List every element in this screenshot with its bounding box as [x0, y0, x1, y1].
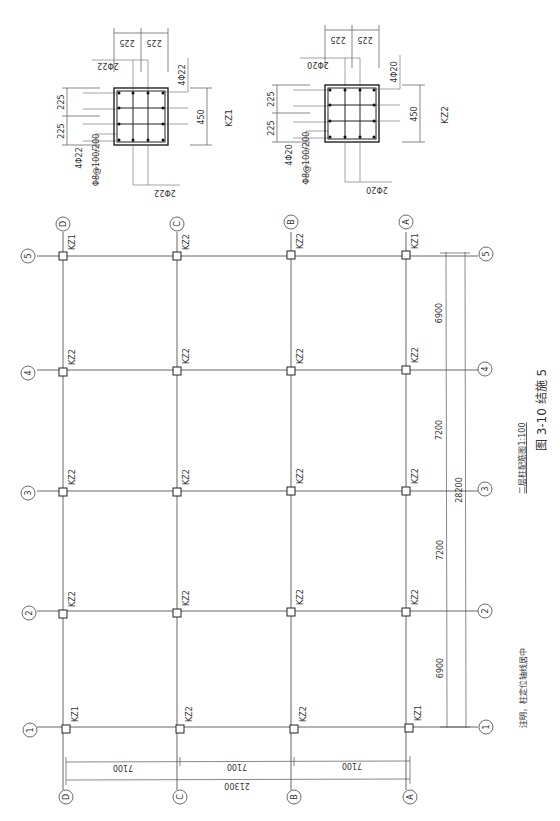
column-C1 [176, 725, 184, 733]
kz2-dim-top-b: 225 [357, 35, 372, 44]
kz1-corner-bars: 4Φ22 [75, 147, 84, 169]
axis-D-bottom: D [62, 794, 71, 800]
axis-A-top: A [402, 219, 411, 225]
column-D2 [59, 610, 67, 618]
kz1-dim-top-a: 225 [119, 38, 134, 47]
axis-bubbles-left: 5 4 3 2 1 [21, 249, 37, 737]
kz2-stirrup: Φ8@100/200 [302, 132, 311, 185]
kz2-dim-top-a: 225 [330, 35, 345, 44]
kz1-dim-left-b: 225 [57, 123, 66, 138]
col-label-C1: KZ2 [185, 706, 194, 722]
column-D4 [59, 368, 67, 376]
col-label-B1: KZ2 [299, 706, 308, 722]
kz1-dim-left-a: 225 [57, 94, 66, 109]
axis-2-left: 2 [25, 610, 34, 615]
col-label-A1: KZ1 [414, 705, 423, 721]
columns: KZ1 KZ2 KZ2 KZ1 KZ2 KZ2 KZ2 KZ2 KZ2 KZ2 … [59, 233, 423, 733]
kz1-label: KZ1 [224, 109, 234, 127]
column-B1 [290, 725, 298, 733]
kz2-dim-left-a: 225 [267, 91, 276, 106]
col-label-C3: KZ2 [182, 469, 191, 485]
axis-2-right: 2 [481, 608, 490, 613]
column-B5 [287, 251, 295, 259]
kz1-size: 450 [197, 109, 206, 124]
col-label-A5: KZ1 [411, 233, 420, 249]
col-label-C5: KZ2 [182, 234, 191, 250]
dim-2-1: 6900 [436, 658, 445, 678]
axis-4-left: 4 [24, 370, 33, 375]
axis-bubbles-top: D C B A [56, 215, 413, 231]
column-D1 [62, 725, 70, 733]
dim-4-3: 7200 [435, 420, 444, 440]
col-label-D5: KZ1 [68, 234, 77, 250]
column-A4 [402, 366, 410, 374]
kz1-right-bars: 4Φ22 [178, 64, 187, 86]
dim-total-letters: 21300 [224, 781, 249, 790]
kz2-top-bars: 2Φ20 [307, 60, 329, 69]
col-label-D4: KZ2 [68, 349, 77, 365]
kz2-bottom-bars: 2Φ20 [366, 185, 388, 194]
dim-5-4: 6900 [435, 303, 444, 323]
col-label-B2: KZ2 [296, 589, 305, 605]
kz2-right-bars: 4Φ20 [390, 61, 399, 83]
axis-1-left: 1 [26, 727, 35, 732]
col-label-B5: KZ2 [296, 233, 305, 249]
column-C4 [173, 367, 181, 375]
col-label-B4: KZ2 [296, 348, 305, 364]
axis-C-top: C [173, 221, 182, 227]
column-C3 [173, 488, 181, 496]
column-B2 [287, 608, 295, 616]
col-label-C4: KZ2 [182, 348, 191, 364]
structural-drawing: 225 225 2Φ22 225 225 4Φ22 Φ8@100/200 [0, 0, 560, 821]
column-A1 [405, 724, 413, 732]
section-kz2: 225 225 2Φ20 225 225 4Φ20 Φ8@100/200 [267, 25, 450, 194]
axis-bubbles-right: 5 4 3 2 1 [478, 247, 493, 734]
axis-5-left: 5 [24, 253, 33, 258]
col-label-A3: KZ2 [411, 468, 420, 484]
column-D3 [59, 488, 67, 496]
column-A2 [402, 608, 410, 616]
dim-total-numbers: 28200 [455, 477, 464, 502]
kz1-rebar-dots [118, 92, 165, 142]
kz1-dim-top-b: 225 [146, 38, 161, 47]
axis-4-right: 4 [481, 366, 490, 371]
column-D5 [59, 252, 67, 260]
kz2-rebar-dots [329, 89, 376, 139]
dimension-letters: 7100 7100 7100 21300 [66, 756, 410, 790]
col-label-D2: KZ2 [68, 591, 77, 607]
section-kz1: 225 225 2Φ22 225 225 4Φ22 Φ8@100/200 [57, 28, 234, 197]
dim-B-A: 7100 [342, 761, 362, 770]
col-label-A2: KZ2 [411, 589, 420, 605]
axis-3-right: 3 [481, 486, 490, 491]
column-A5 [402, 251, 410, 259]
axis-D-top: D [59, 221, 68, 227]
axis-3-left: 3 [24, 490, 33, 495]
figure-caption: 图 3-10 结施 5 [535, 369, 549, 451]
col-label-D1: KZ1 [71, 706, 80, 722]
axis-B-bottom: B [290, 794, 299, 800]
axis-B-top: B [287, 219, 296, 225]
col-label-A4: KZ2 [411, 347, 420, 363]
axis-A-bottom: A [406, 794, 415, 800]
axis-bubbles-bottom: D C B A [59, 790, 417, 804]
dim-C-B: 7100 [227, 762, 247, 771]
column-B4 [287, 367, 295, 375]
axis-5-right: 5 [482, 251, 491, 256]
column-A3 [402, 487, 410, 495]
column-B3 [287, 487, 295, 495]
dim-3-2: 7200 [436, 540, 445, 560]
column-C5 [173, 252, 181, 260]
column-C2 [173, 609, 181, 617]
kz1-stirrup: Φ8@100/200 [92, 134, 101, 187]
kz1-bottom-bars: 2Φ22 [154, 188, 176, 197]
col-label-C2: KZ2 [182, 590, 191, 606]
kz2-dim-left-b: 225 [267, 120, 276, 135]
plan-title: 二层柱配筋图1:100 [517, 422, 527, 493]
plan-note: 注明，柱定位轴线居中 [518, 648, 528, 728]
axis-C-bottom: C [176, 794, 185, 800]
col-label-B3: KZ2 [296, 468, 305, 484]
dimension-numbers: 6900 7200 7200 6900 28200 [435, 252, 470, 728]
kz2-label: KZ2 [440, 106, 450, 124]
col-label-D3: KZ2 [68, 469, 77, 485]
plan-grid [37, 232, 478, 790]
